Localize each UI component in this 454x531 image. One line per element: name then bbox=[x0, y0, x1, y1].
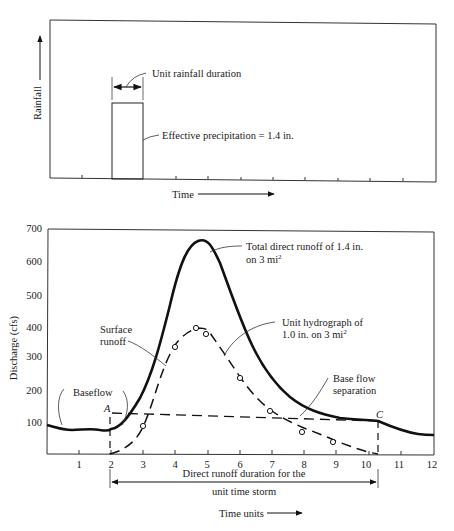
surface-runoff-label-line1: Surface bbox=[100, 324, 132, 335]
unit-hydrograph-label-line1: Unit hydrograph of bbox=[282, 317, 364, 328]
svg-text:2: 2 bbox=[108, 459, 113, 470]
rainfall-plot-frame bbox=[50, 20, 436, 182]
y-tick-labels: 700 600 500 400 300 200 100 bbox=[26, 223, 42, 428]
surface-runoff-label-line2: runoff bbox=[100, 336, 127, 347]
effective-precipitation-bar bbox=[112, 103, 143, 179]
total-runoff-label-line2: on 3 mi2 bbox=[246, 253, 282, 265]
point-a-label: A bbox=[103, 403, 111, 414]
effective-precipitation-label: Effective precipitation = 1.4 in. bbox=[162, 130, 294, 141]
svg-text:10: 10 bbox=[361, 459, 372, 470]
unit-hydrograph-label-line2: 1.0 in. on 3 mi2 bbox=[282, 328, 347, 340]
svg-text:12: 12 bbox=[427, 459, 438, 470]
total-runoff-label-line1: Total direct runoff of 1.4 in. bbox=[246, 241, 363, 252]
baseflow-separation-label-line2: separation bbox=[333, 385, 377, 396]
hydrograph-chart: 700 600 500 400 300 200 100 Discharge (c… bbox=[8, 223, 437, 519]
svg-text:4: 4 bbox=[172, 459, 178, 470]
unit-hydrograph-points bbox=[140, 325, 335, 444]
svg-text:3: 3 bbox=[140, 459, 145, 470]
time-units-axis-label: Time units bbox=[219, 508, 264, 519]
unit-rainfall-duration-label: Unit rainfall duration bbox=[152, 68, 242, 79]
rainfall-axis-label: Rainfall bbox=[32, 86, 43, 120]
svg-text:100: 100 bbox=[26, 417, 42, 428]
duration-label-line1: Direct runoff duration for the bbox=[183, 468, 306, 479]
svg-text:200: 200 bbox=[26, 385, 42, 396]
baseflow-separation-label-line1: Base flow bbox=[333, 373, 376, 384]
svg-text:1: 1 bbox=[76, 459, 81, 470]
baseflow-label: Baseflow bbox=[73, 387, 113, 398]
hydrograph-figure: Unit rainfall duration Effective precipi… bbox=[0, 0, 454, 531]
point-c-label: C bbox=[376, 409, 384, 420]
svg-text:500: 500 bbox=[26, 290, 42, 301]
svg-text:300: 300 bbox=[26, 351, 42, 362]
svg-text:600: 600 bbox=[26, 256, 42, 267]
duration-label-line2: unit time storm bbox=[212, 486, 276, 497]
rainfall-chart: Unit rainfall duration Effective precipi… bbox=[32, 20, 436, 200]
svg-text:700: 700 bbox=[26, 223, 42, 234]
svg-text:400: 400 bbox=[26, 322, 42, 333]
svg-text:9: 9 bbox=[333, 459, 338, 470]
svg-text:11: 11 bbox=[394, 459, 404, 470]
time-axis-label: Time bbox=[172, 189, 194, 200]
discharge-axis-label: Discharge (cfs) bbox=[8, 315, 20, 380]
